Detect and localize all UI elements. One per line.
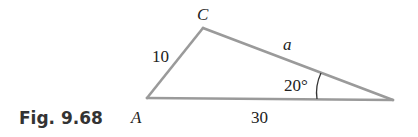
side-bc-label: a (283, 35, 292, 54)
figure-caption: Fig. 9.68 (19, 108, 103, 128)
vertex-a-label: A (130, 108, 142, 127)
angle-b-label: 20° (284, 76, 308, 95)
triangle (147, 28, 393, 100)
side-ac-label: 10 (152, 47, 169, 66)
vertex-c-label: C (197, 5, 209, 24)
triangle-figure: C A 10 a 30 20° Fig. 9.68 (0, 0, 418, 137)
side-ab-label: 30 (251, 108, 268, 127)
side-ab (147, 98, 393, 100)
angle-b-arc (317, 73, 322, 99)
